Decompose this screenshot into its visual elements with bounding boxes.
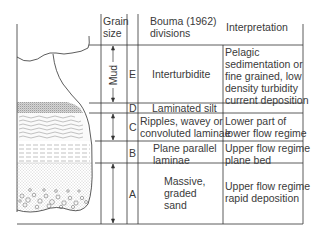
interpretation-a: Upper flow regime rapid deposition [225, 180, 310, 204]
interpretation-c: Lower part of lower flow regime [225, 115, 307, 139]
interp-c-line: lower flow regime [225, 127, 307, 139]
division-name-a: Massive, graded sand [164, 175, 205, 211]
division-name-b: Plane parallel laminae [153, 142, 217, 166]
interp-a-line: rapid deposition [225, 192, 310, 204]
interp-e-line: fine grained, low [225, 70, 308, 82]
interpretation-b: Upper flow regime plane bed [225, 142, 310, 166]
interp-e-line: current deposition [225, 94, 308, 106]
division-letter-c: C [129, 121, 137, 133]
interpretation-e: Pelagic sedimentation or fine grained, l… [225, 46, 308, 106]
grain-label-mud: Mud [107, 62, 119, 88]
header-grain-line2: size [103, 27, 129, 39]
division-letter-a: A [129, 188, 136, 200]
name-c-line: Ripples, wavey or [140, 115, 230, 127]
header-grain-line1: Grain [103, 15, 129, 27]
name-b-line: laminae [153, 154, 217, 166]
division-name-d: Laminated silt [152, 102, 217, 114]
interp-e-line: density turbidity [225, 82, 308, 94]
header-bouma: Bouma (1962) divisions [150, 15, 217, 39]
division-letter-d: D [129, 102, 137, 114]
header-bouma-line1: Bouma (1962) [150, 15, 217, 27]
division-letter-b: B [129, 147, 136, 159]
name-c-line: convoluted laminae [140, 127, 230, 139]
division-name-e: Interturbidite [152, 68, 210, 80]
sediment-column [17, 24, 92, 212]
name-b-line: Plane parallel [153, 142, 217, 154]
division-name-c: Ripples, wavey or convoluted laminae [140, 115, 230, 139]
header-interpretation: Interpretation [226, 21, 288, 33]
interp-c-line: Lower part of [225, 115, 307, 127]
header-grain-size: Grain size [103, 15, 129, 39]
interp-e-line: sedimentation or [225, 58, 308, 70]
division-letter-e: E [129, 68, 136, 80]
interp-e-line: Pelagic [225, 46, 308, 58]
header-bouma-line2: divisions [150, 27, 217, 39]
interp-b-line: plane bed [225, 154, 310, 166]
interp-b-line: Upper flow regime [225, 142, 310, 154]
interp-a-line: Upper flow regime [225, 180, 310, 192]
name-a-line: graded [164, 187, 205, 199]
name-a-line: sand [164, 199, 205, 211]
name-a-line: Massive, [164, 175, 205, 187]
